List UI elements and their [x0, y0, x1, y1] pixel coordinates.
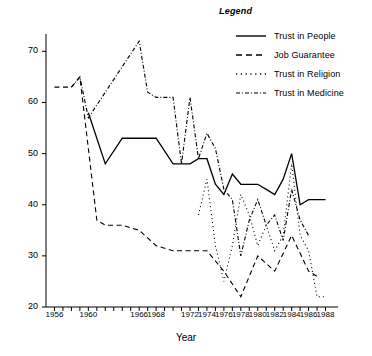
- plot-area: [0, 0, 372, 356]
- y-axis-tick-label: 40: [16, 199, 38, 209]
- x-axis-title: Year: [0, 332, 372, 343]
- y-axis-tick-label: 20: [16, 301, 38, 311]
- x-axis-tick-label: 1960: [75, 310, 101, 319]
- series-line: [71, 41, 308, 256]
- chart-container: Legend Trust in People Job Guarantee Tru…: [0, 0, 372, 356]
- series-line: [198, 164, 325, 297]
- x-axis-tick-label: 1988: [313, 310, 339, 319]
- series-line: [88, 113, 325, 205]
- y-axis-tick-label: 70: [16, 45, 38, 55]
- x-axis-tick-label: 1956: [41, 310, 67, 319]
- y-axis-tick-label: 60: [16, 96, 38, 106]
- x-axis-tick-label: 1968: [143, 310, 169, 319]
- y-axis-tick-label: 50: [16, 148, 38, 158]
- y-axis-tick-label: 30: [16, 250, 38, 260]
